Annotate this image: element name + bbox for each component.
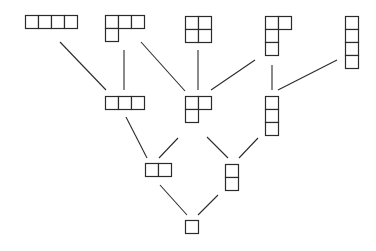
box-cell [159,164,172,177]
box-cell [199,30,212,43]
young-diagram-p31 [106,16,145,42]
box-cell [279,17,292,30]
box-cell [266,97,279,110]
box-cell [226,165,239,178]
box-cell [186,110,199,123]
box-cell [266,123,279,136]
edge-p31-p21 [141,42,185,91]
box-cell [132,16,145,29]
box-cell [266,43,279,56]
young-diagram-p4 [26,16,78,29]
box-cell [346,43,359,56]
box-cell [186,97,199,110]
box-cell [106,16,119,29]
edge-p1111-p111 [278,60,337,90]
box-cell [52,16,65,29]
box-cell [186,221,199,234]
box-cell [106,29,119,42]
young-diagram-p21 [186,97,212,123]
box-cell [146,164,159,177]
edge-p4-p3 [60,42,106,90]
box-cell [186,30,199,43]
edge-p21-p11 [207,137,228,158]
box-cell [119,97,132,110]
young-diagram-p3 [106,97,145,110]
box-cell [119,16,132,29]
box-cell [65,16,78,29]
box-cell [106,97,119,110]
box-cell [199,97,212,110]
young-diagram-p11 [226,165,239,191]
young-diagram-p111 [266,97,279,136]
young-lattice-diagram [0,0,376,251]
edge-p111-p11 [239,138,258,158]
edge-p11-p1 [198,195,218,215]
nodes-layer [26,16,359,234]
young-diagram-p2 [146,164,172,177]
young-diagram-p1111 [346,17,359,69]
box-cell [226,178,239,191]
edge-p3-p2 [126,117,147,158]
box-cell [346,30,359,43]
edge-p2-p1 [160,185,187,215]
edge-p211-p21 [211,60,255,90]
box-cell [132,97,145,110]
box-cell [346,56,359,69]
box-cell [39,16,52,29]
box-cell [186,17,199,30]
box-cell [26,16,39,29]
box-cell [266,110,279,123]
box-cell [266,30,279,43]
young-diagram-p22 [186,17,212,43]
box-cell [199,17,212,30]
young-diagram-p211 [266,17,292,56]
box-cell [266,17,279,30]
edge-p21-p2 [159,138,178,158]
edges-layer [60,42,337,215]
box-cell [346,17,359,30]
young-diagram-p1 [186,221,199,234]
